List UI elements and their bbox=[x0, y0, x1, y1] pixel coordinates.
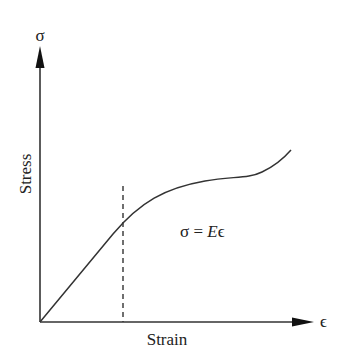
equation-strain: ϵ bbox=[218, 222, 225, 241]
x-axis-label: Strain bbox=[147, 330, 188, 349]
stress-strain-curve bbox=[40, 150, 291, 322]
stress-strain-diagram: σ Stress ϵ Strain σ = Eϵ bbox=[0, 0, 348, 357]
x-axis-symbol: ϵ bbox=[320, 312, 327, 331]
y-axis-arrowhead bbox=[36, 46, 45, 68]
y-axis-label: Stress bbox=[16, 154, 35, 195]
y-axis-symbol: σ bbox=[35, 26, 44, 45]
hookes-law-equation: σ = Eϵ bbox=[180, 222, 225, 241]
equation-modulus: E bbox=[206, 222, 218, 241]
equation-lhs: σ = bbox=[180, 222, 207, 241]
x-axis-arrowhead bbox=[292, 318, 314, 327]
